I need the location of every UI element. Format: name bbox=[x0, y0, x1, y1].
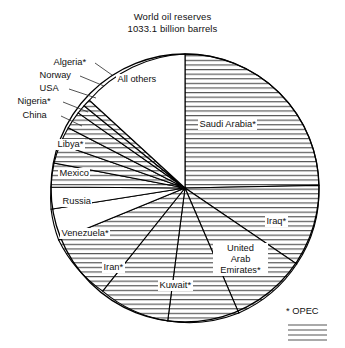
slice-label-saudi-arabia: Saudi Arabia* bbox=[198, 119, 257, 130]
slice-label-all-others: All others bbox=[116, 74, 158, 85]
slice-label-algeria: Algeria* bbox=[52, 57, 88, 68]
slice-label-mexico: Mexico bbox=[58, 168, 90, 179]
slice-label-norway: Norway bbox=[38, 70, 73, 81]
legend-opec-note: * OPEC bbox=[286, 306, 319, 316]
slice-label-nigeria: Nigeria* bbox=[16, 96, 52, 107]
leader-line-usa bbox=[69, 89, 96, 98]
pie-chart-figure: World oil reserves 1033.1 billion barrel… bbox=[0, 0, 345, 348]
pie-svg bbox=[0, 0, 345, 348]
slice-label-libya: Libya* bbox=[56, 139, 85, 150]
slice-label-china: China bbox=[21, 110, 48, 121]
slice-label-iraq: Iraq* bbox=[265, 216, 288, 227]
leader-line-algeria bbox=[95, 63, 112, 75]
leader-line-norway bbox=[80, 76, 104, 86]
slice-label-iran: Iran* bbox=[102, 262, 125, 273]
uae-label-line-2: Arab bbox=[231, 254, 251, 264]
slice-label-venezuela: Venezuela* bbox=[60, 228, 110, 239]
slice-label-kuwait: Kuwait* bbox=[158, 280, 193, 291]
slice-label-russia: Russia bbox=[61, 196, 92, 207]
legend-swatch bbox=[288, 325, 327, 340]
slice-label-usa: USA bbox=[38, 83, 60, 94]
uae-label-line-1: United bbox=[227, 243, 254, 253]
slice-label-united-arab-emirates: United Arab Emirates* bbox=[213, 243, 268, 276]
uae-label-line-3: Emirates* bbox=[220, 265, 260, 275]
